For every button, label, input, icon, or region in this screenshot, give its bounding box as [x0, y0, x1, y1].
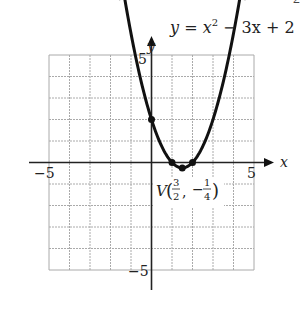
svg-text:(: ( — [166, 180, 173, 201]
x-tick-min: −5 — [34, 165, 55, 181]
svg-text:2: 2 — [173, 191, 179, 202]
svg-text:4: 4 — [204, 191, 210, 202]
x-axis-label: x — [280, 154, 288, 170]
x-tick-max: 5 — [247, 165, 256, 181]
svg-text:,: , — [182, 184, 186, 200]
equation-label: y = x2 − 3x + 2 — [169, 17, 295, 37]
y-axis-label: y — [146, 38, 156, 54]
svg-text:): ) — [212, 180, 219, 201]
parabola-chart: y x −5 5 5 −5 y = x2 − 3x + 2 V ( 3 2 , … — [0, 0, 302, 312]
svg-text:−: − — [192, 181, 204, 197]
y-tick-max: 5 — [138, 51, 147, 67]
svg-text:3: 3 — [173, 177, 179, 188]
vertex-label: V ( 3 2 , − 1 4 ) — [154, 177, 224, 207]
y-tick-min: −5 — [128, 263, 149, 279]
axes — [29, 36, 274, 290]
svg-text:1: 1 — [204, 177, 210, 188]
